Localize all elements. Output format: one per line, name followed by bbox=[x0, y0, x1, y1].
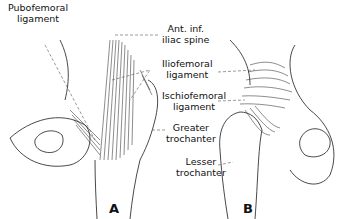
label-line: Ischiofemoral bbox=[162, 90, 226, 101]
label-greater-trochanter: Greater trochanter bbox=[166, 122, 216, 144]
label-line: Lesser bbox=[176, 156, 226, 167]
panel-label-b: B bbox=[243, 201, 253, 216]
label-line: trochanter bbox=[176, 167, 226, 178]
femur-a-right bbox=[130, 160, 140, 219]
hip-ligament-diagram: Pubofemoral ligament Ant. inf. iliac spi… bbox=[0, 0, 355, 219]
panel-label-a: A bbox=[109, 201, 119, 216]
label-ischiofemoral-ligament: Ischiofemoral ligament bbox=[162, 90, 226, 112]
label-line: ligament bbox=[162, 101, 226, 112]
label-line: Iliofemoral bbox=[162, 58, 213, 69]
acetabulum-a bbox=[35, 131, 63, 153]
label-line: Pubofemoral bbox=[8, 2, 68, 13]
label-line: ligament bbox=[162, 69, 213, 80]
label-line: Greater bbox=[166, 122, 216, 133]
label-line: Ant. inf. bbox=[162, 23, 209, 34]
label-iliofemoral-ligament: Iliofemoral ligament bbox=[162, 58, 213, 80]
acetabulum-b bbox=[300, 129, 331, 157]
label-line: iliac spine bbox=[162, 34, 209, 45]
label-lesser-trochanter: Lesser trochanter bbox=[176, 156, 226, 178]
femur-a-left bbox=[95, 160, 97, 219]
label-pubofemoral-ligament: Pubofemoral ligament bbox=[8, 2, 68, 24]
label-line: ligament bbox=[8, 13, 68, 24]
ligament-fibers-b bbox=[240, 62, 292, 135]
ligament-fibers-a bbox=[70, 40, 152, 160]
label-line: trochanter bbox=[166, 133, 216, 144]
label-ant-inf-iliac-spine: Ant. inf. iliac spine bbox=[162, 23, 209, 45]
